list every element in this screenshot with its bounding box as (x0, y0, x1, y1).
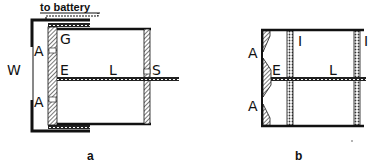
label-L: L (109, 62, 117, 78)
diagram-canvas: to battery W A A G E L S a (0, 0, 375, 166)
label-to-battery: to battery (40, 1, 91, 13)
top-plate-insulator (48, 23, 90, 27)
screen-S (144, 29, 150, 124)
speck (351, 140, 353, 142)
label-A-top-b: A (248, 45, 258, 61)
label-W: W (7, 62, 21, 78)
label-I-left: I (298, 33, 302, 49)
electrode-column (48, 27, 57, 125)
diagram-b: A A E L I I b (248, 29, 368, 163)
label-A-bottom-b: A (248, 98, 258, 114)
label-E-b: E (272, 62, 281, 78)
caption-a: a (87, 149, 94, 163)
aperture-top (49, 48, 56, 53)
label-E: E (60, 62, 69, 78)
central-rod-b (271, 77, 366, 81)
electrode-top-b (263, 31, 270, 52)
label-I-right: I (364, 33, 368, 49)
electrode-E-b (263, 58, 271, 97)
diagram-a: to battery W A A G E L S a (7, 1, 179, 163)
bottom-plate-insulator (48, 125, 90, 129)
aperture-bottom (49, 97, 56, 102)
label-A-bottom: A (34, 94, 44, 110)
electrode-bottom-b (263, 104, 270, 125)
caption-b: b (295, 149, 302, 163)
label-L-b: L (329, 62, 337, 78)
label-G: G (60, 31, 71, 47)
label-A-top: A (34, 43, 44, 59)
screen-aperture (144, 69, 150, 74)
label-S: S (152, 62, 161, 78)
battery-wire (46, 13, 98, 19)
